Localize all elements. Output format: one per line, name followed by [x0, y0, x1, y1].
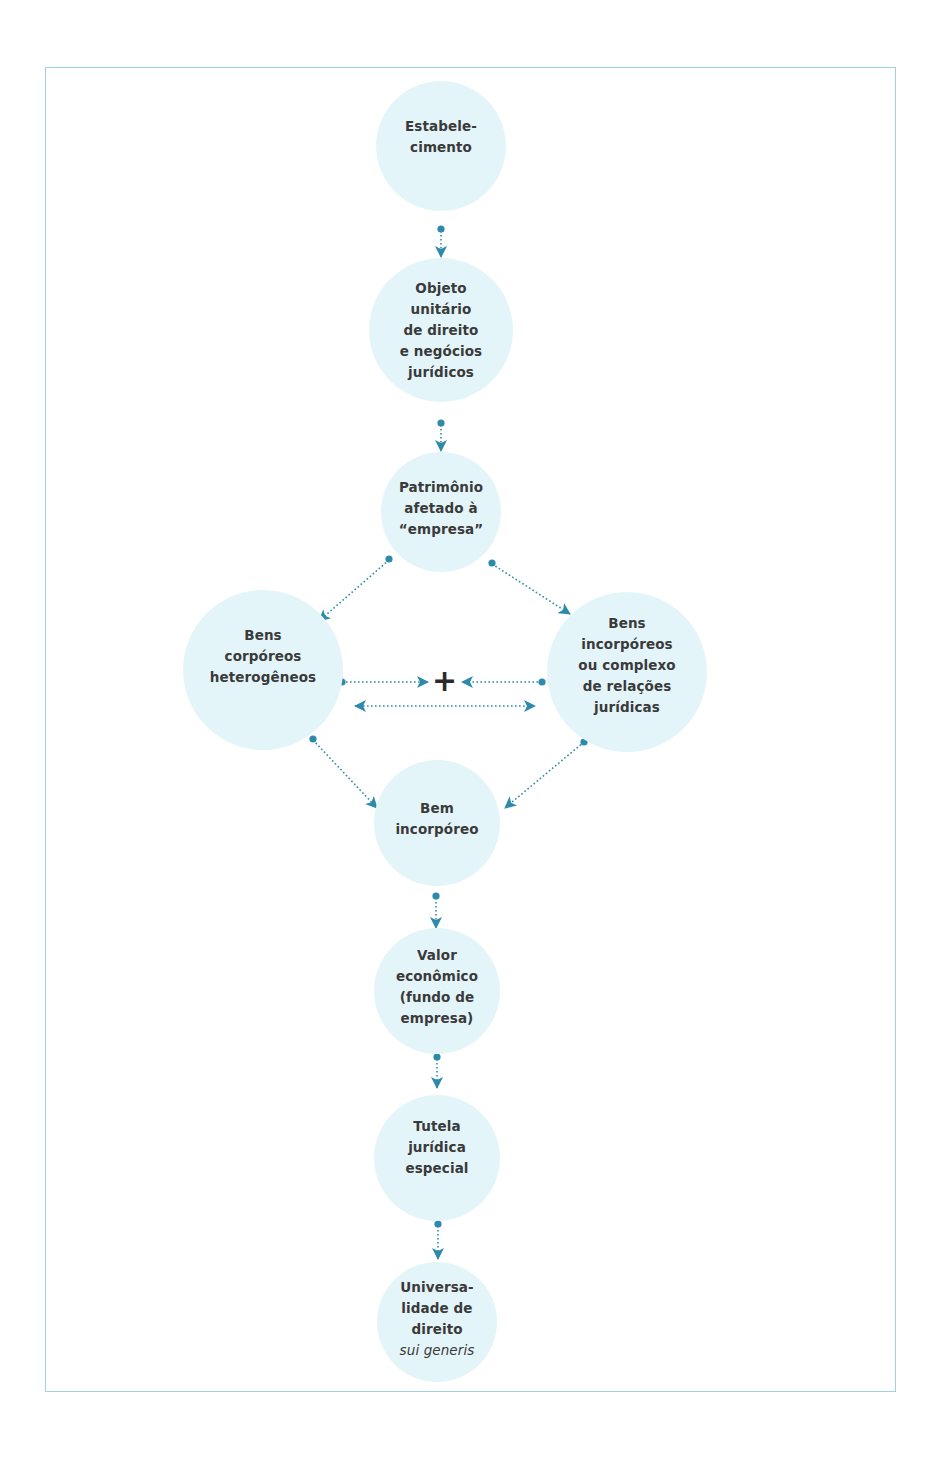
node-label: Estabele- cimento	[405, 116, 477, 158]
node-bens-corporeos: Bens corpóreos heterogêneos	[183, 590, 343, 750]
node-label: Valor econômico (fundo de empresa)	[396, 945, 478, 1029]
node-label: Patrimônio afetado à “empresa”	[399, 477, 484, 540]
node-bens-incorporeos: Bens incorpóreos ou complexo de relações…	[547, 592, 707, 752]
arrow-patrimonio-incorporeos	[492, 564, 570, 614]
node-tutela: Tutela jurídica especial	[374, 1095, 500, 1221]
node-bem-incorporeo: Bem incorpóreo	[374, 760, 500, 886]
node-label: Bens corpóreos heterogêneos	[210, 625, 316, 688]
node-label: Objeto unitário de direito e negócios ju…	[400, 278, 483, 383]
node-objeto-unitario: Objeto unitário de direito e negócios ju…	[369, 258, 513, 402]
node-label: Bem incorpóreo	[395, 798, 478, 840]
arrow-patrimonio-corporeos	[319, 560, 389, 621]
connectors	[0, 0, 948, 1474]
plus-symbol: +	[432, 666, 457, 696]
node-label-main: Universa- lidade de direito	[400, 1279, 473, 1337]
arrow-corporeos-bem	[313, 740, 377, 808]
arrow-incorporeos-bem	[505, 742, 584, 808]
node-estabelecimento: Estabele- cimento	[376, 81, 506, 211]
node-label: Universa- lidade de direito sui generis	[400, 1256, 475, 1382]
node-patrimonio: Patrimônio afetado à “empresa”	[381, 452, 501, 572]
node-label-italic: sui generis	[400, 1340, 475, 1361]
node-label: Tutela jurídica especial	[405, 1116, 468, 1179]
node-universalidade: Universa- lidade de direito sui generis	[377, 1262, 497, 1382]
node-valor-economico: Valor econômico (fundo de empresa)	[374, 928, 500, 1054]
node-label: Bens incorpóreos ou complexo de relações…	[578, 613, 675, 718]
